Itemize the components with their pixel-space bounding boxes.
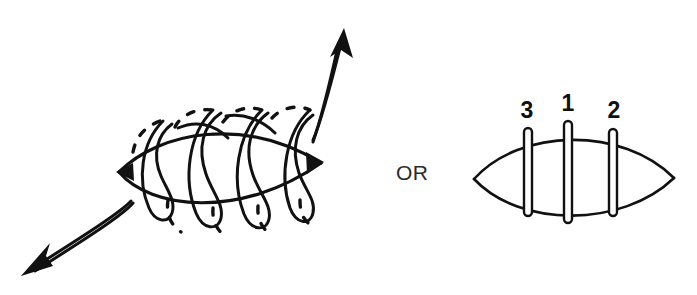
or-connector-label: OR <box>396 161 429 184</box>
suture-label-1: 1 <box>562 90 575 116</box>
suture-diagram-svg: OR 3 1 2 <box>0 0 697 295</box>
figure-root: OR 3 1 2 <box>0 0 697 295</box>
suture-bar-1: 1 <box>562 90 575 223</box>
suture-label-3: 3 <box>521 97 534 123</box>
suture-bar-1-shape <box>564 121 572 223</box>
suture-bar-3-shape <box>524 128 532 216</box>
suture-label-2: 2 <box>608 97 621 123</box>
suture-bar-2-shape <box>609 129 617 216</box>
